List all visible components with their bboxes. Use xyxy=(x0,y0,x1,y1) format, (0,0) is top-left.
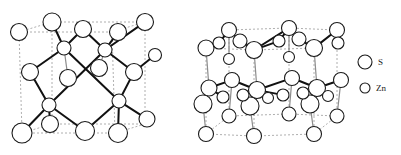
atom-s xyxy=(76,122,95,141)
bond-heavy xyxy=(32,76,47,102)
unit-cell-edge xyxy=(112,32,115,133)
atom-s xyxy=(213,37,225,49)
unit-cell-edge xyxy=(19,32,22,133)
legend-label-s: S xyxy=(378,57,383,67)
atom-s xyxy=(273,35,285,47)
legend-marker-zn xyxy=(360,83,370,93)
atom-s xyxy=(42,116,59,133)
atom-s xyxy=(246,42,263,59)
atom-s xyxy=(222,109,236,123)
structure-wurtzite xyxy=(194,21,349,144)
atom-s xyxy=(201,80,217,96)
atom-zn xyxy=(323,91,334,102)
bond-light xyxy=(314,53,316,84)
atom-zn xyxy=(98,43,112,57)
atom-s xyxy=(332,37,344,49)
atom-s xyxy=(222,23,237,38)
atom-zn xyxy=(57,41,71,55)
atom-zn xyxy=(217,91,229,103)
atom-s xyxy=(225,73,240,88)
atom-s xyxy=(75,21,92,38)
atom-s xyxy=(198,40,214,56)
atom-s xyxy=(306,40,323,57)
unit-cell-edge xyxy=(254,134,314,136)
atom-s xyxy=(334,73,349,88)
atom-s xyxy=(149,49,162,62)
legend-marker-s xyxy=(358,55,372,69)
figure-root: SZn xyxy=(0,0,401,155)
atom-s xyxy=(22,64,39,81)
atom-s xyxy=(285,71,300,86)
atom-s xyxy=(292,32,306,46)
bond-light xyxy=(229,84,231,112)
bond-light xyxy=(337,84,340,112)
atom-zn xyxy=(42,98,56,112)
legend-label-zn: Zn xyxy=(376,83,386,93)
atom-zn xyxy=(224,54,235,65)
atom-s xyxy=(109,124,128,143)
atom-s xyxy=(137,14,154,31)
atom-zn xyxy=(284,52,295,63)
structure-zinc-blende xyxy=(11,13,162,143)
atom-s xyxy=(194,95,212,113)
atom-s xyxy=(91,60,108,77)
atom-s xyxy=(330,23,345,38)
atom-s xyxy=(60,70,77,87)
element-legend: SZn xyxy=(358,55,386,93)
unit-cell-edge xyxy=(229,114,289,116)
atom-zn xyxy=(112,94,126,108)
atom-zn xyxy=(277,89,289,101)
unit-cell-edge xyxy=(229,28,289,30)
atom-s xyxy=(233,34,247,48)
bond-light xyxy=(254,55,256,86)
zns-crystal-structure-diagram: SZn xyxy=(0,0,401,155)
atom-s xyxy=(43,13,61,31)
atom-s xyxy=(330,109,344,123)
bond-light xyxy=(289,82,291,110)
atom-zn xyxy=(263,93,274,104)
atom-s xyxy=(11,24,28,41)
atom-zn xyxy=(237,89,249,101)
bond-light xyxy=(206,52,208,83)
bond-heavy xyxy=(34,50,61,69)
atom-zn xyxy=(297,87,309,99)
atom-s xyxy=(126,64,143,81)
atom-s xyxy=(110,24,127,41)
atom-s xyxy=(12,123,32,143)
atom-s xyxy=(139,111,155,127)
atom-s xyxy=(199,127,214,142)
atoms-zinc-blende xyxy=(11,13,162,143)
atom-s xyxy=(247,129,262,144)
atom-s xyxy=(307,127,322,142)
atom-s xyxy=(282,107,296,121)
